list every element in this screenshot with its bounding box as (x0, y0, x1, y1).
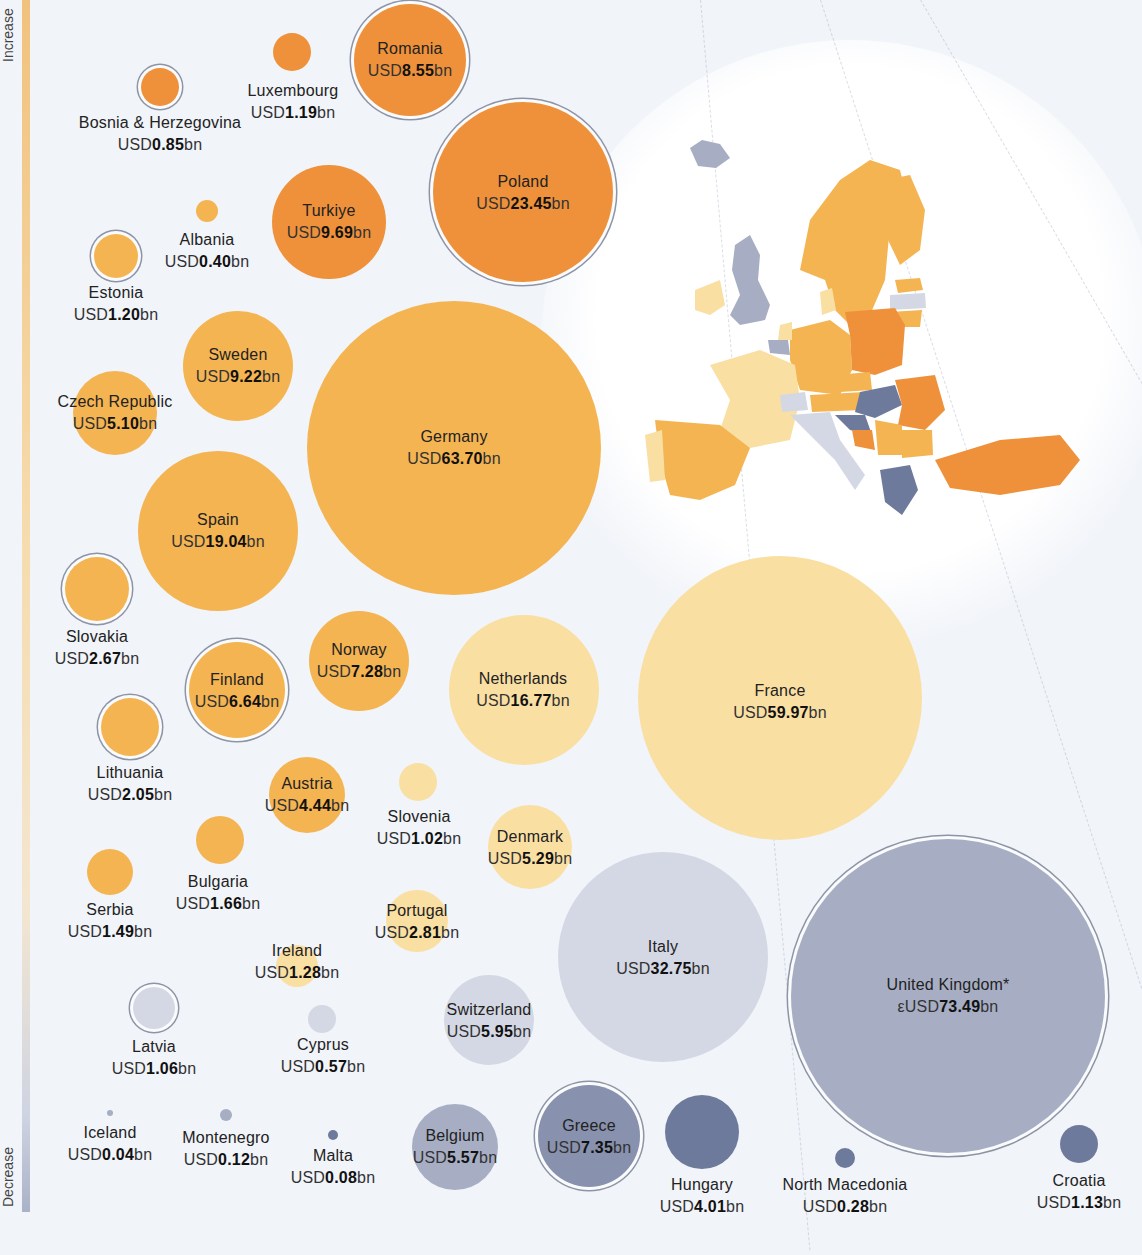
bubble-label-hungary: HungaryUSD4.01bn (660, 1174, 745, 1218)
country-value: USD2.67bn (55, 648, 140, 670)
country-value: USD5.29bn (488, 848, 573, 870)
bubble-label-finland: FinlandUSD6.64bn (195, 669, 280, 713)
country-value: USD0.85bn (79, 134, 241, 156)
bubble-label-austria: AustriaUSD4.44bn (265, 773, 350, 817)
country-name: Slovenia (377, 806, 462, 828)
country-name: Turkiye (287, 200, 372, 222)
country-name: Greece (547, 1115, 632, 1137)
bubble-label-ireland: IrelandUSD1.28bn (255, 940, 340, 984)
europe-map (640, 130, 1100, 530)
bubble-label-denmark: DenmarkUSD5.29bn (488, 826, 573, 870)
country-value: USD0.28bn (783, 1196, 908, 1218)
bubble-bulgaria (196, 816, 244, 864)
country-value: USD1.06bn (112, 1058, 197, 1080)
bubble-cyprus (308, 1005, 336, 1033)
country-name: Albania (165, 229, 250, 251)
country-value: USD1.28bn (255, 962, 340, 984)
country-value: USD59.97bn (733, 702, 827, 724)
bubble-label-iceland: IcelandUSD0.04bn (68, 1122, 153, 1166)
bubble-label-sweden: SwedenUSD9.22bn (196, 344, 281, 388)
bubble-label-estonia: EstoniaUSD1.20bn (74, 282, 159, 326)
scale-label-decrease: Decrease (0, 1138, 20, 1216)
country-name: Iceland (68, 1122, 153, 1144)
map-iceland (690, 140, 730, 168)
bubble-label-norway: NorwayUSD7.28bn (317, 639, 402, 683)
bubble-label-greece: GreeceUSD7.35bn (547, 1115, 632, 1159)
bubble-label-spain: SpainUSD19.04bn (171, 509, 265, 553)
country-name: Denmark (488, 826, 573, 848)
bubble-label-france: FranceUSD59.97bn (733, 680, 827, 724)
bubble-label-albania: AlbaniaUSD0.40bn (165, 229, 250, 273)
country-value: USD9.22bn (196, 366, 281, 388)
bubble-serbia (87, 849, 133, 895)
country-value: USD1.66bn (176, 893, 261, 915)
country-value: USD6.64bn (195, 691, 280, 713)
country-name: Belgium (413, 1125, 498, 1147)
bubble-label-czech-republic: Czech RepublicUSD5.10bn (58, 391, 173, 435)
country-name: Montenegro (182, 1127, 269, 1149)
bubble-estonia (94, 234, 138, 278)
country-name: Germany (407, 426, 501, 448)
country-name: Latvia (112, 1036, 197, 1058)
map-portugal (645, 430, 665, 482)
country-value: USD2.05bn (88, 784, 173, 806)
bubble-label-lithuania: LithuaniaUSD2.05bn (88, 762, 173, 806)
bubble-albania (196, 200, 218, 222)
bubble-malta (328, 1130, 338, 1140)
country-value: USD63.70bn (407, 448, 501, 470)
bubble-label-portugal: PortugalUSD2.81bn (375, 900, 460, 944)
country-name: Austria (265, 773, 350, 795)
map-belgium (768, 340, 790, 355)
country-name: North Macedonia (783, 1174, 908, 1196)
map-czech (835, 372, 872, 392)
country-name: Finland (195, 669, 280, 691)
country-value: USD5.95bn (447, 1021, 532, 1043)
bubble-label-luxembourg: LuxembourgUSD1.19bn (248, 80, 339, 124)
increase-decrease-scale-bar (22, 0, 30, 1212)
country-name: Romania (368, 38, 453, 60)
country-value: USD1.13bn (1037, 1192, 1122, 1214)
country-name: Czech Republic (58, 391, 173, 413)
bubble-north-macedonia (835, 1148, 855, 1168)
country-name: Cyprus (281, 1034, 366, 1056)
country-value: USD4.44bn (265, 795, 350, 817)
country-value: USD7.35bn (547, 1137, 632, 1159)
bubble-slovakia (65, 557, 129, 621)
bubble-montenegro (220, 1109, 232, 1121)
country-value: USD4.01bn (660, 1196, 745, 1218)
bubble-label-netherlands: NetherlandsUSD16.77bn (476, 668, 570, 712)
bubble-luxembourg (273, 33, 311, 71)
map-finland (885, 175, 925, 265)
bubble-label-serbia: SerbiaUSD1.49bn (68, 899, 153, 943)
bubble-label-croatia: CroatiaUSD1.13bn (1037, 1170, 1122, 1214)
country-value: USD1.19bn (248, 102, 339, 124)
map-greece (880, 465, 918, 515)
bubble-label-belgium: BelgiumUSD5.57bn (413, 1125, 498, 1169)
country-name: Portugal (375, 900, 460, 922)
country-name: United Kingdom* (886, 974, 1009, 996)
bubble-label-switzerland: SwitzerlandUSD5.95bn (447, 999, 532, 1043)
country-value: USD9.69bn (287, 222, 372, 244)
country-name: Croatia (1037, 1170, 1122, 1192)
country-value: USD5.57bn (413, 1147, 498, 1169)
bubble-label-bulgaria: BulgariaUSD1.66bn (176, 871, 261, 915)
map-serbia (875, 420, 902, 455)
map-uk (730, 235, 770, 325)
country-value: USD7.28bn (317, 661, 402, 683)
bubble-bosnia-herzegovina (141, 68, 179, 106)
country-value: USD5.10bn (58, 413, 173, 435)
country-name: Malta (291, 1145, 376, 1167)
map-estonia (895, 278, 923, 293)
bubble-label-romania: RomaniaUSD8.55bn (368, 38, 453, 82)
bubble-label-malta: MaltaUSD0.08bn (291, 1145, 376, 1189)
bubble-label-united-kingdom: United Kingdom*εUSD73.49bn (886, 974, 1009, 1018)
country-name: Lithuania (88, 762, 173, 784)
bubble-label-montenegro: MontenegroUSD0.12bn (182, 1127, 269, 1171)
bubble-label-turkiye: TurkiyeUSD9.69bn (287, 200, 372, 244)
country-value: USD0.40bn (165, 251, 250, 273)
country-value: USD19.04bn (171, 531, 265, 553)
bubble-latvia (133, 987, 175, 1029)
country-name: Serbia (68, 899, 153, 921)
country-name: Switzerland (447, 999, 532, 1021)
bubble-label-poland: PolandUSD23.45bn (476, 171, 570, 215)
